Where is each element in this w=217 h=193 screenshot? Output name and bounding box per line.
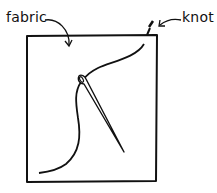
thread-top: [84, 44, 144, 79]
fabric-square: [27, 35, 157, 182]
needle: [78, 75, 124, 152]
thread-bottom: [39, 82, 81, 173]
diagram-drawing: [0, 0, 217, 193]
knot-arrow-icon: [160, 19, 181, 25]
knot-thread: [147, 28, 150, 35]
knot-label: knot: [182, 9, 214, 25]
fabric-label: fabric: [6, 9, 47, 25]
knot-mark: [149, 21, 153, 27]
sewing-diagram: fabric knot: [0, 0, 217, 193]
